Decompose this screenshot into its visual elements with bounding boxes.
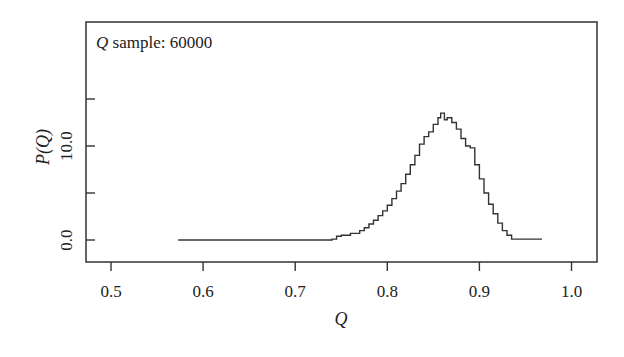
x-tick-label: 0.5	[100, 282, 121, 301]
x-tick-label: 0.6	[192, 282, 213, 301]
distribution-curve	[178, 113, 542, 240]
x-tick-label: 1.0	[561, 282, 582, 301]
annotation: Q sample: 60000	[96, 33, 212, 52]
chart: 0.50.60.70.80.91.0 0.010.0 Q sample: 600…	[0, 0, 624, 357]
y-tick-label: 10.0	[57, 131, 76, 161]
x-axis-label: Q	[335, 309, 348, 329]
x-axis-ticks: 0.50.60.70.80.91.0	[100, 262, 582, 301]
y-axis-ticks: 0.010.0	[57, 99, 95, 251]
y-tick-label: 0.0	[57, 229, 76, 250]
y-axis-label: P(Q)	[33, 129, 54, 166]
x-tick-label: 0.9	[469, 282, 490, 301]
plot-frame	[86, 22, 597, 262]
x-tick-label: 0.7	[285, 282, 307, 301]
x-tick-label: 0.8	[377, 282, 398, 301]
